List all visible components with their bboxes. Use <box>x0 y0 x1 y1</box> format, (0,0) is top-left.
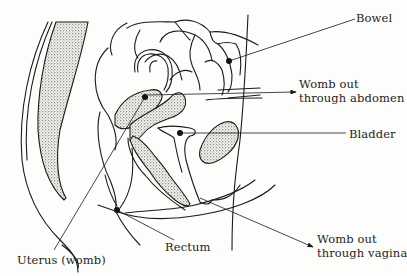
vagina-shape <box>128 136 190 210</box>
label-womb-vagina-line2: through vagina <box>317 247 407 259</box>
label-uterus: Uterus (womb) <box>17 254 106 266</box>
rectum-leader <box>117 210 174 240</box>
label-womb-abdomen-line1: Womb out <box>299 78 359 90</box>
uterus-shape <box>115 90 186 143</box>
label-womb-vagina-line1: Womb out <box>317 233 377 245</box>
bowel-shape <box>127 20 262 100</box>
spine-shape <box>21 22 88 272</box>
uterus-leader <box>54 97 145 250</box>
label-bowel: Bowel <box>356 12 392 24</box>
label-bladder: Bladder <box>349 128 396 140</box>
label-womb-abdomen-line2: through abdomen <box>299 92 404 104</box>
label-rectum: Rectum <box>165 241 210 253</box>
leader-lines <box>54 19 355 250</box>
pubic-bone-shape <box>200 122 239 164</box>
womb-vagina-arrow <box>200 198 313 247</box>
body-outline <box>62 15 275 268</box>
